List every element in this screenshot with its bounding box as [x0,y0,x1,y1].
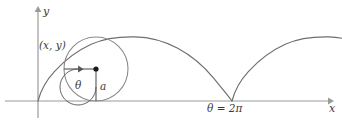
y-axis-label: y [43,6,49,17]
x-axis-label: x [329,103,335,114]
point-xy-label: (x, y) [39,40,66,51]
theta-angle-label: θ [75,80,81,91]
cusp-theta-2pi-label: θ = 2π [207,103,242,114]
cycloid-diagram: y x (x, y) θ a θ = 2π [0,0,342,127]
y-axis-arrow [35,6,42,12]
radius-a-label: a [100,81,106,92]
circle-center-dot [93,66,98,71]
cycloid-arch-2 [232,37,342,101]
diagram-canvas [0,0,342,127]
theta-arc-arrowhead [78,66,84,73]
x-axis [5,98,334,105]
